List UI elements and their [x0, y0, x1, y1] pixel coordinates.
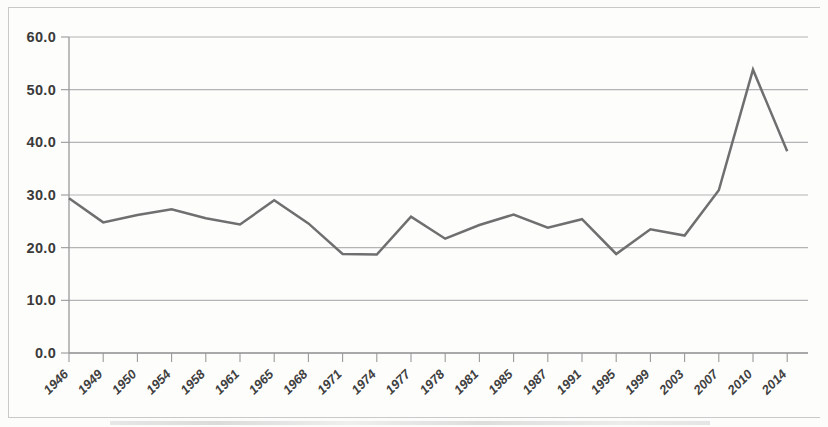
x-axis-tick-label: 1985	[485, 366, 516, 397]
y-axis-tick-label: 30.0	[27, 187, 56, 203]
data-series-line	[69, 70, 787, 255]
x-axis-tick-label: 1950	[109, 367, 140, 398]
x-axis-tick-label: 2014	[758, 367, 789, 398]
x-axis-tick-label: 1987	[519, 366, 550, 397]
x-axis-tick-label: 2010	[724, 367, 755, 398]
x-axis-tick-label: 2003	[655, 367, 686, 398]
x-axis-tick-label: 1995	[588, 366, 619, 397]
chart-svg: 0.010.020.030.040.050.060.0 194619491950…	[0, 0, 828, 427]
y-axis-labels-group: 0.010.020.030.040.050.060.0	[27, 29, 56, 361]
y-axis-tick-label: 0.0	[35, 345, 56, 361]
x-axis-tick-label: 1961	[211, 367, 242, 398]
y-axis-tick-label: 60.0	[27, 29, 56, 45]
y-axis-tick-label: 50.0	[27, 82, 56, 98]
x-axis-tick-label: 1978	[417, 366, 448, 397]
x-axis-tick-label: 1958	[177, 366, 208, 397]
x-axis-tick-label: 1946	[40, 366, 71, 397]
caption-smudge	[110, 421, 710, 425]
y-axis-tick-label: 20.0	[27, 240, 56, 256]
x-axis-tick-label: 1974	[348, 367, 379, 398]
x-axis-tick-label: 1999	[622, 366, 653, 397]
line-chart: 0.010.020.030.040.050.060.0 194619491950…	[0, 0, 828, 427]
y-axis-tick-label: 10.0	[27, 292, 56, 308]
x-axis-tick-label: 1968	[280, 366, 311, 397]
figure-page: 0.010.020.030.040.050.060.0 194619491950…	[0, 0, 828, 427]
x-axis-tick-label: 1965	[246, 366, 277, 397]
x-axis-ticks-group	[69, 353, 787, 362]
y-axis-ticks-group	[61, 37, 69, 353]
gridlines-group	[69, 37, 808, 353]
x-axis-tick-label: 1954	[143, 367, 174, 398]
x-axis-tick-label: 1977	[382, 366, 413, 397]
x-axis-tick-label: 2007	[689, 366, 721, 398]
y-axis-tick-label: 40.0	[27, 134, 56, 150]
x-axis-tick-label: 1949	[75, 366, 106, 397]
x-axis-tick-label: 1981	[451, 367, 482, 398]
x-axis-labels-group: 1946194919501954195819611965196819711974…	[40, 366, 789, 398]
x-axis-tick-label: 1971	[314, 367, 345, 398]
x-axis-tick-label: 1991	[553, 367, 584, 398]
